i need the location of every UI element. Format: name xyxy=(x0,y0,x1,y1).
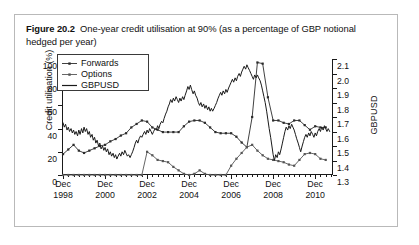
x-axis-minor-tick xyxy=(84,175,85,177)
series-marker xyxy=(157,129,159,131)
series-marker xyxy=(151,154,153,156)
x-axis-minor-tick xyxy=(299,175,300,177)
x-axis-ticklabel-year: 2010 xyxy=(295,190,335,201)
x-axis-ticklabel-month: Dec xyxy=(85,179,125,190)
x-axis-ticklabel-year: 2004 xyxy=(169,190,209,201)
series-marker xyxy=(256,150,258,152)
x-axis-minor-tick xyxy=(284,175,285,177)
y-axis-left-tick xyxy=(58,152,62,153)
y-axis-right-tick xyxy=(333,175,337,176)
y-axis-right-tick xyxy=(333,74,337,75)
series-marker xyxy=(167,131,169,133)
series-marker xyxy=(199,169,201,171)
series-marker xyxy=(288,163,290,165)
y-axis-right-ticklabel: 1.3 xyxy=(337,177,363,187)
series-marker xyxy=(293,119,295,121)
series-marker xyxy=(319,126,321,128)
x-axis-ticklabel-year: 1998 xyxy=(43,190,83,201)
series-marker xyxy=(114,138,116,140)
series-marker xyxy=(262,63,264,65)
series-marker xyxy=(157,159,159,161)
series-marker xyxy=(172,131,174,133)
x-axis-ticklabel: Dec2010 xyxy=(295,179,335,201)
y-axis-right-ticklabel: 1.7 xyxy=(337,119,363,129)
x-axis-minor-tick xyxy=(142,175,143,177)
x-axis-minor-tick xyxy=(289,175,290,177)
series-marker xyxy=(83,152,85,154)
series-marker xyxy=(162,160,164,162)
series-marker xyxy=(235,136,237,138)
y-axis-right-title: GBPUSD xyxy=(369,57,379,173)
y-axis-right-ticklabel: 1.4 xyxy=(337,163,363,173)
x-axis-minor-tick xyxy=(263,175,264,177)
x-axis-minor-tick xyxy=(116,175,117,177)
x-axis-line xyxy=(62,174,333,175)
series-marker xyxy=(262,154,264,156)
series-marker xyxy=(204,122,206,124)
series-marker xyxy=(172,166,174,168)
x-axis-ticklabel: Dec2008 xyxy=(253,179,293,201)
y-axis-right-ticklabel: 2.0 xyxy=(337,76,363,86)
series-marker xyxy=(214,131,216,133)
series-marker xyxy=(109,140,111,142)
y-axis-right-ticklabel: 1.5 xyxy=(337,148,363,158)
x-axis-ticklabel: Dec2004 xyxy=(169,179,209,201)
x-axis-minor-tick xyxy=(194,175,195,177)
series-marker xyxy=(241,152,243,154)
x-axis-minor-tick xyxy=(68,175,69,177)
x-axis-ticklabel-month: Dec xyxy=(295,179,335,190)
legend-label: GBPUSD xyxy=(81,80,119,91)
x-axis-minor-tick xyxy=(326,175,327,177)
series-marker xyxy=(325,126,327,128)
series-marker xyxy=(230,132,232,134)
y-axis-right-tick xyxy=(333,59,337,60)
x-axis-minor-tick xyxy=(131,175,132,177)
series-marker xyxy=(288,123,290,125)
series-marker xyxy=(319,158,321,160)
legend-key-line-marker-diamond-icon xyxy=(61,69,78,80)
y-axis-right-ticklabel: 1.8 xyxy=(337,105,363,115)
x-axis-minor-tick xyxy=(226,175,227,177)
x-axis-ticklabel-month: Dec xyxy=(253,179,293,190)
x-axis-minor-tick xyxy=(158,175,159,177)
series-markers-options xyxy=(62,144,327,176)
series-marker xyxy=(251,116,253,118)
series-marker xyxy=(256,61,258,63)
x-axis-minor-tick xyxy=(137,175,138,177)
x-axis-ticklabel: Dec2000 xyxy=(85,179,125,201)
x-axis-ticklabel-month: Dec xyxy=(169,179,209,190)
y-axis-left-ticklabel: 80 xyxy=(31,84,57,94)
series-marker xyxy=(199,119,201,121)
series-marker xyxy=(230,165,232,167)
y-axis-right-tick xyxy=(333,161,337,162)
x-axis-ticklabel-month: Dec xyxy=(127,179,167,190)
x-axis-ticklabel: Dec2002 xyxy=(127,179,167,201)
y-axis-left-tick xyxy=(58,175,62,176)
x-axis-minor-tick xyxy=(200,175,201,177)
x-axis-ticklabel-month: Dec xyxy=(211,179,251,190)
series-marker xyxy=(235,158,237,160)
series-marker xyxy=(298,159,300,161)
y-axis-right-ticklabel: 1.9 xyxy=(337,90,363,100)
series-marker xyxy=(178,169,180,171)
series-marker xyxy=(183,125,185,127)
series-marker xyxy=(209,126,211,128)
x-axis-minor-tick xyxy=(257,175,258,177)
x-axis-minor-tick xyxy=(74,175,75,177)
x-axis-ticklabel-year: 2000 xyxy=(85,190,125,201)
series-marker xyxy=(193,119,195,121)
y-axis-right-tick xyxy=(333,103,337,104)
series-line-options xyxy=(63,145,326,175)
series-marker xyxy=(246,146,248,148)
x-axis-minor-tick xyxy=(320,175,321,177)
x-axis-minor-tick xyxy=(236,175,237,177)
series-marker xyxy=(251,144,253,146)
y-axis-right-tick xyxy=(333,146,337,147)
series-marker xyxy=(72,144,74,146)
series-marker xyxy=(283,122,285,124)
series-marker xyxy=(78,150,80,152)
figure-card: Figure 20.2 One-year credit utilisation … xyxy=(14,14,398,227)
series-marker xyxy=(272,119,274,121)
y-axis-left-ticklabel: 100 xyxy=(31,61,57,71)
legend-label: Options xyxy=(81,69,112,80)
